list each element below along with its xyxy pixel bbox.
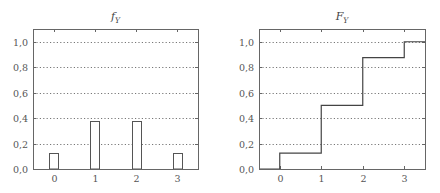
bar: [50, 154, 59, 170]
x-tick-label: 1: [92, 173, 98, 184]
x-tick-label: 1: [318, 173, 324, 184]
x-tick-label: 2: [360, 173, 366, 184]
x-tick-label: 3: [174, 173, 180, 184]
y-tick-label: 0,2: [239, 139, 254, 150]
cdf-step-line: [259, 42, 425, 169]
x-tick-label: 0: [277, 173, 283, 184]
figure: 0,00,20,40,60,81,00123fY0,00,20,40,60,81…: [0, 0, 440, 193]
pmf-chart: 0,00,20,40,60,81,00123fY: [13, 10, 199, 184]
chart-title: FY: [335, 10, 350, 25]
y-tick-label: 0,4: [13, 113, 28, 124]
bar: [133, 122, 142, 170]
plot-frame: [34, 30, 199, 170]
y-tick-label: 0,4: [239, 113, 254, 124]
y-tick-label: 0,2: [13, 139, 28, 150]
y-tick-label: 0,0: [13, 164, 28, 175]
bar: [91, 122, 100, 170]
cdf-chart: 0,00,20,40,60,81,00123FY: [239, 10, 426, 184]
y-tick-label: 0,6: [13, 88, 28, 99]
x-tick-label: 0: [51, 173, 57, 184]
x-tick-label: 3: [401, 173, 407, 184]
x-tick-label: 2: [133, 173, 139, 184]
y-tick-label: 0,6: [239, 88, 254, 99]
plot-frame: [260, 30, 426, 170]
y-tick-label: 1,0: [239, 37, 254, 48]
y-tick-label: 0,8: [239, 62, 254, 73]
y-tick-label: 0,8: [13, 62, 28, 73]
y-tick-label: 1,0: [13, 37, 28, 48]
y-tick-label: 0,0: [239, 164, 254, 175]
bar: [174, 154, 183, 170]
chart-title: fY: [110, 10, 121, 25]
